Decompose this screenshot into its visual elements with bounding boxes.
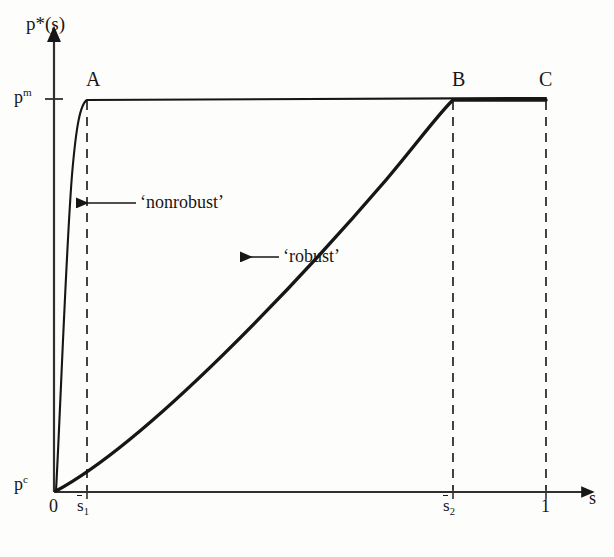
x-tick-label-s1: s1 (77, 497, 89, 514)
point-label-b: B (452, 69, 465, 89)
figure-canvas: p*(s) s pm pc 0 s1 s2 1 A B C ‘nonrobust… (0, 0, 614, 557)
x-tick-label-one: 1 (541, 497, 550, 515)
x-tick-label-s2: s2 (443, 497, 455, 514)
y-tick-label-pm: pm (14, 88, 32, 106)
y-axis-title: p*(s) (26, 14, 65, 33)
y-tick-label-pc: pc (14, 475, 28, 493)
x-tick-label-zero: 0 (49, 497, 58, 515)
curve-robust (56, 100, 546, 491)
x-axis-title: s (589, 489, 596, 507)
point-label-c: C (539, 69, 552, 89)
point-label-a: A (86, 69, 100, 89)
curve-nonrobust (56, 98, 546, 491)
nonrobust-annotation-label: ‘nonrobust’ (140, 193, 224, 211)
robust-annotation-label: ‘robust’ (283, 247, 340, 265)
